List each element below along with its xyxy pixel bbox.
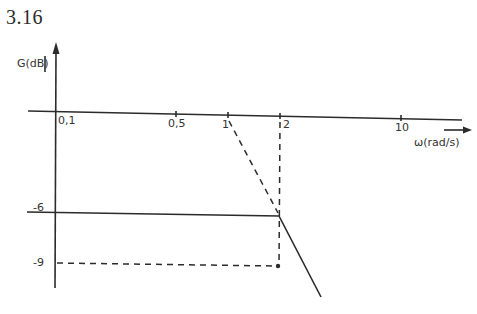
- x-tick-10: 10: [395, 121, 409, 134]
- bode-diagram: G(dB) 0,1 0,5 1 2 10 ω(rad/s) -6 -9: [0, 0, 477, 314]
- x-tick-0-5: 0,5: [168, 117, 186, 130]
- x-tick-2: 2: [283, 118, 290, 131]
- x-axis-label: ω(rad/s): [414, 136, 459, 149]
- x-tick-1: 1: [222, 118, 229, 131]
- dashed-slope-line: [229, 121, 278, 213]
- x-tick-0-1: 0,1: [58, 114, 76, 127]
- minus-9-point-marker: [276, 264, 280, 268]
- dashed-vertical-guide: [279, 122, 280, 266]
- y-axis-label: G(dB): [17, 57, 49, 70]
- dashed-horizontal-guide: [57, 263, 277, 266]
- y-axis: [45, 42, 60, 288]
- y-tick-minus-9: -9: [33, 256, 44, 269]
- x-axis: [28, 111, 462, 121]
- y-axis-arrow-icon: [53, 42, 60, 54]
- x-axis-arrow-icon: [444, 127, 472, 134]
- magnitude-asymptote-line: [27, 212, 321, 297]
